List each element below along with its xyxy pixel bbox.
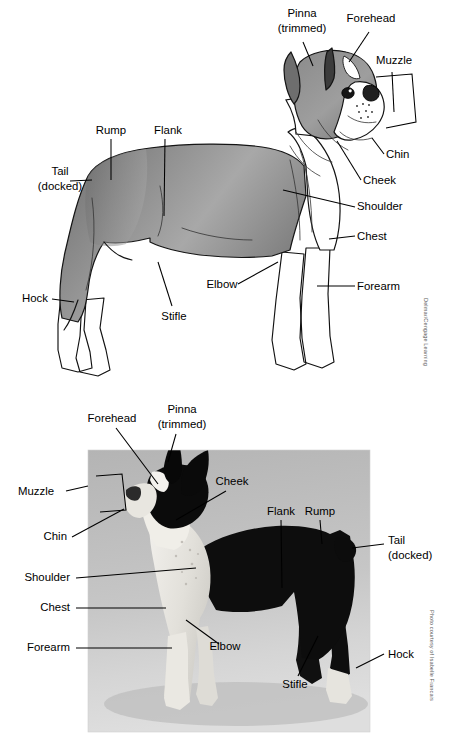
- photo-label-pinna: Pinna: [167, 403, 197, 415]
- photo-label-forehead: Forehead: [88, 412, 137, 424]
- photo-label-stifle: Stifle: [282, 678, 307, 690]
- photo-label-cheek: Cheek: [216, 475, 249, 487]
- leader-elbow: [238, 262, 278, 284]
- photo-label-chest: Chest: [40, 601, 71, 613]
- label-hock: Hock: [22, 292, 48, 304]
- illustrated-dog: [58, 48, 384, 376]
- label-shoulder: Shoulder: [357, 200, 403, 212]
- photo-label-chin: Chin: [44, 530, 67, 542]
- label-pinna: Pinna: [287, 7, 317, 19]
- anatomy-figure: Pinna (trimmed) Forehead Muzzle Chin Che…: [0, 0, 455, 745]
- leader-cheek: [337, 141, 361, 180]
- front-leg-near: [300, 248, 334, 368]
- illustration-credit: Delmar/Cengage Learning: [423, 298, 429, 366]
- photo-label-hock: Hock: [388, 648, 414, 660]
- photo-label-muzzle: Muzzle: [18, 485, 54, 497]
- label-forehead: Forehead: [347, 12, 396, 24]
- photograph-panel: Forehead Pinna (trimmed) Cheek Muzzle Ch…: [0, 392, 455, 745]
- label-muzzle: Muzzle: [376, 54, 412, 66]
- label-pinna-sub: (trimmed): [278, 22, 327, 34]
- leader-stifle: [158, 262, 172, 306]
- photo-label-pinna-sub: (trimmed): [158, 418, 207, 430]
- photo-label-shoulder: Shoulder: [24, 571, 70, 583]
- photo-label-elbow: Elbow: [209, 640, 241, 652]
- leader-chin: [372, 138, 384, 154]
- photo-front-leg-near: [164, 632, 190, 710]
- label-chest: Chest: [357, 230, 388, 242]
- eye: [342, 88, 354, 99]
- illustration-svg: Pinna (trimmed) Forehead Muzzle Chin Che…: [0, 0, 455, 392]
- illustration-panel: Pinna (trimmed) Forehead Muzzle Chin Che…: [0, 0, 455, 392]
- photograph-credit: Photo courtesy of Isabelle Francais: [429, 610, 435, 701]
- leader-muzzle: [392, 72, 394, 112]
- photo-label-rump: Rump: [305, 505, 335, 517]
- label-flank: Flank: [154, 124, 182, 136]
- label-tail: Tail: [51, 165, 68, 177]
- label-chin: Chin: [386, 148, 409, 160]
- label-stifle: Stifle: [161, 310, 186, 322]
- photograph-svg: Forehead Pinna (trimmed) Cheek Muzzle Ch…: [0, 392, 455, 745]
- label-rump: Rump: [96, 124, 126, 136]
- photo-leader-muzzle: [66, 486, 88, 491]
- photo-label-forearm: Forearm: [27, 641, 70, 653]
- eye-highlight: [349, 89, 352, 92]
- photo-label-flank: Flank: [267, 505, 295, 517]
- nose: [363, 85, 379, 101]
- photo-label-tail: Tail: [388, 534, 405, 546]
- pinna-left: [284, 52, 300, 104]
- label-tail-sub: (docked): [38, 180, 83, 192]
- photo-label-tail-sub: (docked): [388, 549, 433, 561]
- label-cheek: Cheek: [363, 174, 396, 186]
- label-forearm: Forearm: [357, 280, 400, 292]
- label-elbow: Elbow: [206, 278, 238, 290]
